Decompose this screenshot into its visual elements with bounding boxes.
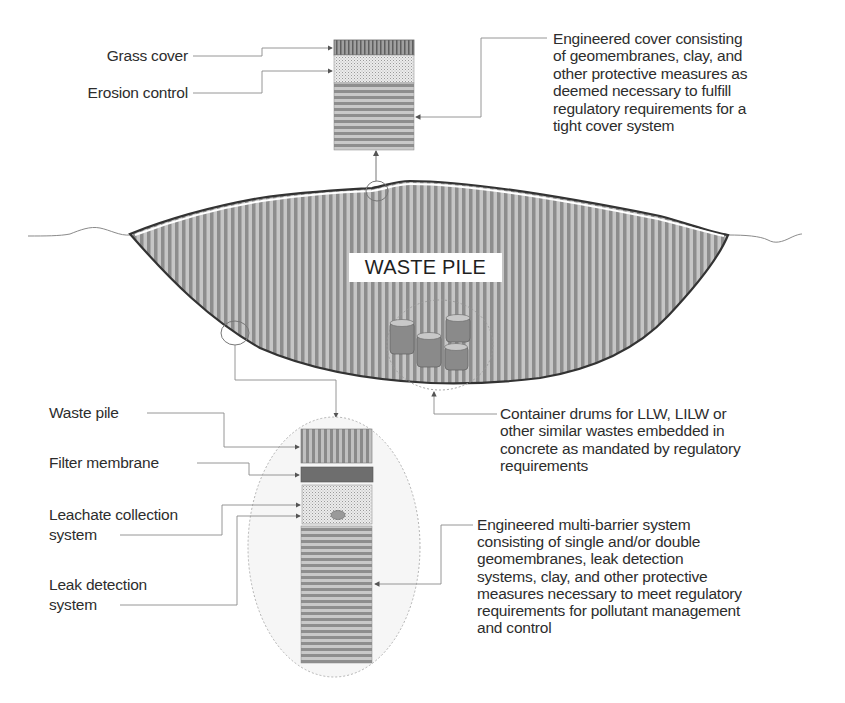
erosion-control-layer bbox=[334, 55, 414, 83]
engineered-cover-layer bbox=[334, 83, 414, 150]
ground-line-left bbox=[28, 227, 130, 236]
diagram-canvas: WASTE PILE Grass cover Erosion control E… bbox=[0, 0, 845, 703]
engineered-cover-description: Engineered cover consisting of geomembra… bbox=[553, 30, 747, 134]
grass-cover-label: Grass cover bbox=[40, 47, 188, 64]
multi-barrier-description: Engineered multi-barrier system consisti… bbox=[477, 516, 742, 636]
erosion-control-connector bbox=[193, 71, 332, 93]
waste-pile-connector bbox=[147, 413, 299, 447]
grass-cover-layer bbox=[334, 40, 414, 55]
filter-membrane-label: Filter membrane bbox=[49, 454, 159, 471]
engineered-cover-connector bbox=[416, 38, 547, 117]
leachate-pipe bbox=[331, 511, 345, 520]
waste-pile-layer bbox=[301, 429, 372, 463]
multi-barrier-layer bbox=[301, 526, 372, 663]
container-drums-description: Container drums for LLW, LILW or other s… bbox=[500, 405, 740, 475]
leachate-collection-label: Leachate collection system bbox=[49, 505, 178, 545]
grass-cover-connector bbox=[193, 48, 332, 56]
waste-pile-layer-label: Waste pile bbox=[49, 404, 119, 421]
drums-connector bbox=[434, 392, 497, 414]
waste-pile-label: WASTE PILE bbox=[349, 253, 502, 282]
filter-membrane-layer bbox=[301, 467, 373, 482]
erosion-control-label: Erosion control bbox=[40, 84, 188, 101]
ground-line-right bbox=[728, 234, 802, 242]
leak-detection-label: Leak detection system bbox=[49, 575, 147, 615]
